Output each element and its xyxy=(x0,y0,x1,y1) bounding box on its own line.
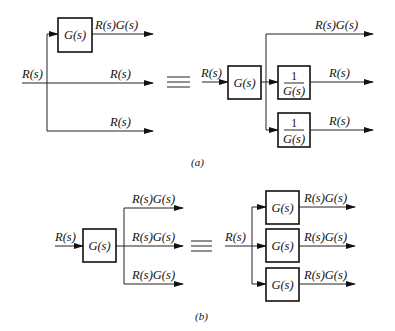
block-diagram-canvas: R(s) G(s) R(s)G(s) R(s) R(s) R(s) G(s) R… xyxy=(0,0,395,331)
b-equivalence-icon xyxy=(191,241,212,251)
b-right-g-label-3: G(s) xyxy=(271,278,293,292)
b-right-output-0: R(s)G(s) xyxy=(303,191,347,205)
a-left-output-2: R(s) xyxy=(109,115,131,129)
a-right-output-2: R(s) xyxy=(328,114,350,128)
a-right-inverse-1-numerator: 1 xyxy=(291,70,297,82)
diagram-b-right: R(s) G(s) G(s) G(s) R(s)G(s) R(s)G(s) R(… xyxy=(224,191,355,301)
a-right-output-0: R(s)G(s) xyxy=(314,18,358,32)
a-right-output-1: R(s) xyxy=(328,66,350,80)
caption-a: (a) xyxy=(191,156,204,169)
diagram-a-left: R(s) G(s) R(s)G(s) R(s) R(s) xyxy=(21,18,153,131)
a-equivalence-icon xyxy=(167,77,190,87)
a-right-inverse-1-denominator: G(s) xyxy=(283,84,305,98)
b-right-input-label: R(s) xyxy=(224,230,246,244)
b-right-g-label-2: G(s) xyxy=(271,239,293,253)
b-left-output-0: R(s)G(s) xyxy=(131,192,175,206)
b-left-g-label: G(s) xyxy=(88,239,110,253)
a-left-output-0: R(s)G(s) xyxy=(94,18,138,32)
a-left-output-1: R(s) xyxy=(109,67,131,81)
b-left-output-1: R(s)G(s) xyxy=(131,230,175,244)
diagram-a-right: R(s) G(s) R(s)G(s) 1 G(s) R(s) 1 G(s) R(… xyxy=(200,18,373,147)
caption-b: (b) xyxy=(195,310,208,323)
a-right-inverse-2-numerator: 1 xyxy=(291,117,297,129)
a-right-input-label: R(s) xyxy=(200,66,222,80)
diagram-b-left: R(s) G(s) R(s)G(s) R(s)G(s) R(s)G(s) xyxy=(54,192,183,284)
b-left-output-2: R(s)G(s) xyxy=(131,268,175,282)
b-right-output-2: R(s)G(s) xyxy=(303,268,347,282)
a-left-g-label: G(s) xyxy=(64,28,86,42)
a-left-input-label: R(s) xyxy=(21,67,43,81)
a-right-g-label: G(s) xyxy=(233,76,255,90)
b-left-input-label: R(s) xyxy=(54,230,76,244)
b-right-output-1: R(s)G(s) xyxy=(303,230,347,244)
b-right-g-label-1: G(s) xyxy=(271,201,293,215)
a-right-inverse-2-denominator: G(s) xyxy=(283,132,305,146)
